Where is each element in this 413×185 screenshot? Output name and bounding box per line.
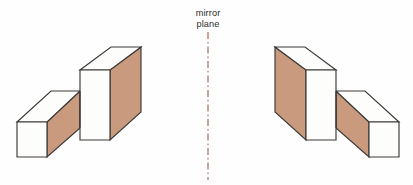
left-block-bar-front-face: [17, 122, 47, 157]
mirror-plane-label-line2: plane: [197, 19, 220, 29]
right-block-bar-front-face: [369, 122, 399, 157]
figure-canvas: mirror plane: [0, 0, 413, 185]
mirror-plane-figure: mirror plane: [0, 0, 413, 185]
right-block: [275, 47, 399, 157]
right-block-tall-front-face: [306, 70, 336, 140]
mirror-plane-label-line1: mirror: [196, 8, 221, 18]
left-block: [17, 47, 141, 157]
left-block-tall-front-face: [80, 70, 110, 140]
